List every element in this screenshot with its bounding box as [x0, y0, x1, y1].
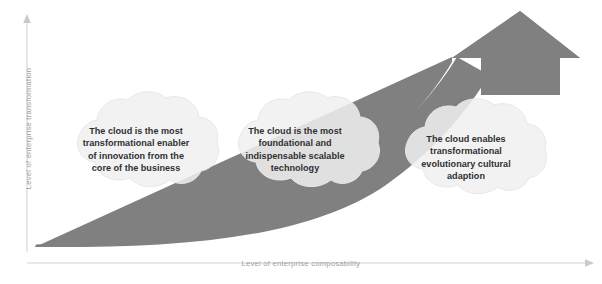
cloud-label-1-line-4: core of the business	[62, 162, 210, 174]
x-axis-label: Level of enterprise composability	[0, 259, 602, 268]
cloud-label-2-line-4: technology	[224, 162, 366, 174]
cloud-label-3-line-3: evolutionary cultural	[396, 158, 536, 170]
cloud-label-3-line-4: adaption	[396, 170, 536, 182]
cloud-label-3: The cloud enables transformational evolu…	[396, 133, 536, 183]
cloud-label-3-line-2: transformational	[396, 145, 536, 157]
cloud-label-1: The cloud is the most transformational e…	[62, 125, 210, 175]
cloud-label-2-line-1: The cloud is the most	[224, 125, 366, 137]
cloud-label-1-line-2: transformational enabler	[62, 137, 210, 149]
cloud-label-2: The cloud is the most foundational and i…	[224, 125, 366, 175]
cloud-label-2-line-2: foundational and	[224, 137, 366, 149]
cloud-label-1-line-3: of innovation from the	[62, 150, 210, 162]
cloud-transformation-diagram: Level of enterprise transformation Level…	[0, 0, 602, 284]
y-axis-arrow-icon	[23, 14, 31, 23]
cloud-label-2-line-3: indispensable scalable	[224, 150, 366, 162]
cloud-label-3-line-1: The cloud enables	[396, 133, 536, 145]
cloud-label-1-line-1: The cloud is the most	[62, 125, 210, 137]
y-axis-label: Level of enterprise transformation	[24, 49, 33, 209]
